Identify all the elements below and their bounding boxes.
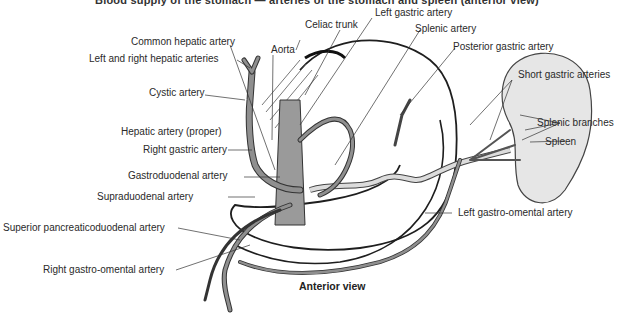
- label-spleen: Spleen: [545, 136, 576, 148]
- label-supraduodenal-artery: Supraduodenal artery: [97, 191, 193, 203]
- label-right-gastric-artery: Right gastric artery: [143, 144, 227, 156]
- label-superior-pancreaticoduodenal-artery: Superior pancreaticoduodenal artery: [3, 222, 165, 234]
- label-splenic-branches: Splenic branches: [537, 117, 614, 129]
- label-left-gastric-artery: Left gastric artery: [375, 7, 452, 19]
- label-left-right-hepatic-arteries: Left and right hepatic arteries: [89, 53, 219, 65]
- view-label: Anterior view: [299, 280, 366, 292]
- label-splenic-artery: Splenic artery: [415, 23, 476, 35]
- label-left-gastro-omental-artery: Left gastro-omental artery: [458, 207, 573, 219]
- label-celiac-trunk: Celiac trunk: [305, 19, 358, 31]
- label-posterior-gastric-artery: Posterior gastric artery: [453, 41, 554, 53]
- label-common-hepatic-artery: Common hepatic artery: [131, 36, 235, 48]
- label-aorta: Aorta: [271, 44, 295, 56]
- label-short-gastric-arteries: Short gastric arteries: [518, 69, 610, 81]
- label-hepatic-artery-proper: Hepatic artery (proper): [121, 126, 222, 138]
- label-right-gastro-omental-artery: Right gastro-omental artery: [43, 264, 164, 276]
- label-gastroduodenal-artery: Gastroduodenal artery: [128, 170, 228, 182]
- label-cystic-artery: Cystic artery: [149, 87, 205, 99]
